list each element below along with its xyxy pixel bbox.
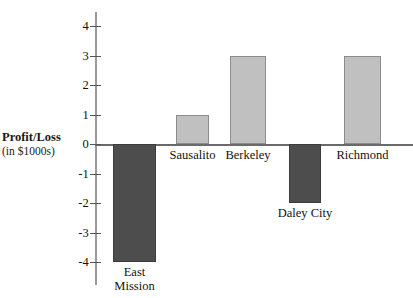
- category-label: Berkeley: [188, 148, 308, 162]
- category-label: EastMission: [75, 265, 195, 293]
- y-axis-title-line-2: (in $1000s): [2, 144, 88, 158]
- y-tick-mark: [90, 174, 101, 175]
- y-tick-mark: [90, 115, 101, 116]
- y-tick-mark: [90, 203, 101, 204]
- category-label-line-1: Richmond: [336, 148, 388, 162]
- bar: [230, 56, 266, 145]
- y-tick-label: 3: [83, 50, 89, 63]
- bar: [176, 115, 209, 145]
- category-label-line-1: Daley City: [278, 206, 333, 220]
- y-tick-label: -3: [78, 227, 89, 240]
- category-label: Richmond: [303, 148, 413, 162]
- y-tick-label: 4: [83, 20, 89, 33]
- y-tick-mark: [90, 262, 101, 263]
- y-tick-mark: [90, 56, 101, 57]
- y-tick-label: 2: [83, 79, 89, 92]
- category-label: Daley City: [245, 206, 365, 220]
- y-axis-title-line-1: Profit/Loss: [2, 130, 88, 144]
- bar: [344, 56, 381, 145]
- category-label-line-1: Berkeley: [225, 148, 270, 162]
- y-tick-label: -2: [78, 197, 89, 210]
- y-tick-label: -1: [78, 168, 89, 181]
- y-axis-title: Profit/Loss (in $1000s): [2, 130, 88, 158]
- category-label-line-2: Mission: [75, 279, 195, 293]
- y-tick-mark: [90, 85, 101, 86]
- y-axis-line: [95, 12, 97, 285]
- profit-loss-bar-chart: Profit/Loss (in $1000s) 43210-1-2-3-4 Ea…: [0, 0, 413, 298]
- y-tick-label: 1: [83, 109, 89, 122]
- y-tick-mark: [90, 144, 101, 145]
- y-tick-mark: [90, 233, 101, 234]
- y-tick-mark: [90, 26, 101, 27]
- category-label-line-1: East: [124, 265, 146, 279]
- y-tick-label: 0: [83, 138, 89, 151]
